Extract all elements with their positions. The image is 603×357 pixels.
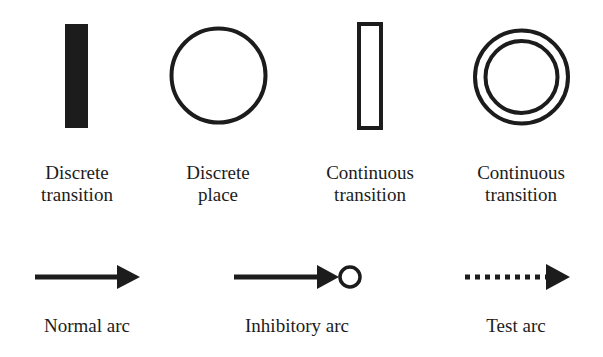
inhibitory-arc-icon <box>234 265 360 289</box>
label-line: transition <box>17 184 137 206</box>
continuous-place-icon <box>475 31 568 124</box>
label-line: Discrete <box>17 162 137 184</box>
inhibitory-arc-label: Inhibitory arc <box>222 315 372 337</box>
label-text: Test arc <box>456 315 576 337</box>
continuous-transition-icon <box>359 24 381 128</box>
discrete-place-label: Discrete place <box>158 162 278 206</box>
label-line: transition <box>456 184 586 206</box>
test-arc-label: Test arc <box>456 315 576 337</box>
continuous-place-label: Continuous transition <box>456 162 586 206</box>
label-line: place <box>158 184 278 206</box>
label-line: transition <box>305 184 435 206</box>
normal-arc-icon <box>35 265 140 289</box>
label-text: Normal arc <box>17 315 157 337</box>
label-text: Inhibitory arc <box>222 315 372 337</box>
label-line: Continuous <box>305 162 435 184</box>
label-line: Discrete <box>158 162 278 184</box>
discrete-place-icon <box>172 29 266 123</box>
continuous-transition-label: Continuous transition <box>305 162 435 206</box>
discrete-transition-icon <box>65 24 88 128</box>
test-arc-icon <box>465 264 570 290</box>
discrete-transition-label: Discrete transition <box>17 162 137 206</box>
normal-arc-label: Normal arc <box>17 315 157 337</box>
label-line: Continuous <box>456 162 586 184</box>
